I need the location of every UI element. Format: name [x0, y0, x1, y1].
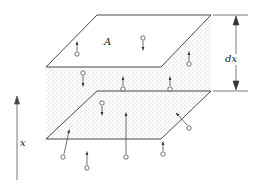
- axis-label: x: [20, 138, 26, 148]
- slab-diagram: [0, 0, 258, 188]
- thickness-label: dx: [225, 54, 237, 64]
- x-axis-arrow: [15, 96, 20, 180]
- area-label: A: [104, 37, 111, 47]
